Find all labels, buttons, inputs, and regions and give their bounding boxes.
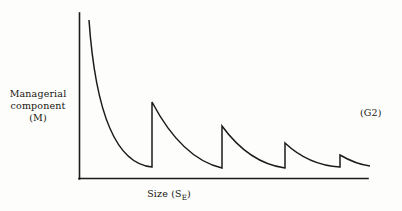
managerial-component-curve (89, 20, 370, 168)
figure-panel: Managerial component (M) Size (SE) (G2) (0, 0, 402, 211)
x-axis-label-suffix: ) (187, 188, 191, 199)
y-axis-label: Managerial component (M) (0, 88, 76, 124)
y-axis-label-line-3: (M) (0, 112, 76, 124)
panel-tag: (G2) (360, 107, 381, 118)
x-axis-label: Size (SE) (79, 188, 259, 204)
x-axis-label-prefix: Size (S (147, 188, 181, 199)
y-axis-label-line-1: Managerial (0, 88, 76, 100)
y-axis-label-line-2: component (0, 100, 76, 112)
